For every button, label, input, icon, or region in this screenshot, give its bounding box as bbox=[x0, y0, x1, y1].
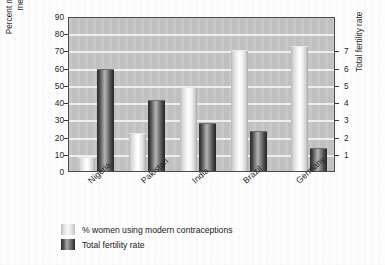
y-axis-left-tick-10: 10 bbox=[42, 151, 64, 160]
bar-fertility-nigeria bbox=[97, 69, 114, 171]
y-axis-left-tick-40: 40 bbox=[42, 99, 64, 108]
y-axis-left-tick-70: 70 bbox=[42, 47, 64, 56]
y-axis-right-tick-6: 6 bbox=[344, 65, 366, 74]
y-axis-right-tick-2: 2 bbox=[344, 134, 366, 143]
y-axis-left-tick-60: 60 bbox=[42, 65, 64, 74]
legend-swatch-dark bbox=[61, 239, 75, 250]
legend-label-fertility: Total fertility rate bbox=[82, 240, 145, 250]
y-axis-left-title: Percent married women using modern metho… bbox=[4, 0, 34, 44]
y-axis-right-title: Total fertility rate bbox=[354, 0, 368, 72]
y-axis-left-title-line-2: methods of contraception bbox=[15, 0, 26, 44]
legend-swatch-light bbox=[61, 224, 75, 235]
bar-contraception-nigeria bbox=[78, 157, 95, 171]
gridline-80 bbox=[69, 34, 334, 36]
y-axis-left-tick-0: 0 bbox=[42, 168, 64, 177]
y-axis-right-tick-3: 3 bbox=[344, 116, 366, 125]
bar-contraception-germany bbox=[291, 46, 308, 171]
y-axis-left-tick-30: 30 bbox=[42, 116, 64, 125]
y-axis-left-tick-20: 20 bbox=[42, 134, 64, 143]
legend-item-fertility: Total fertility rate bbox=[61, 237, 232, 252]
plot-area bbox=[68, 17, 335, 172]
bar-contraception-india bbox=[180, 87, 197, 171]
y-axis-right-tick-1: 1 bbox=[344, 151, 366, 160]
y-axis-left-title-line-1: Percent married women using modern bbox=[4, 0, 15, 44]
y-axis-left-tick-50: 50 bbox=[42, 82, 64, 91]
legend-label-contraception: % women using modern contraceptions bbox=[82, 225, 232, 235]
bar-contraception-brazil bbox=[231, 50, 248, 171]
bar-fertility-india bbox=[199, 123, 216, 171]
chart-figure: Percent married women using modern metho… bbox=[0, 0, 385, 265]
y-axis-right-tick-7: 7 bbox=[344, 47, 366, 56]
bar-contraception-pakistan bbox=[129, 133, 146, 171]
y-axis-right-tick-4: 4 bbox=[344, 99, 366, 108]
y-axis-left-tick-90: 90 bbox=[42, 13, 64, 22]
legend: % women using modern contraceptions Tota… bbox=[61, 222, 232, 252]
y-axis-left-tick-80: 80 bbox=[42, 30, 64, 39]
y-axis-right-tick-5: 5 bbox=[344, 82, 366, 91]
legend-item-contraception: % women using modern contraceptions bbox=[61, 222, 232, 237]
